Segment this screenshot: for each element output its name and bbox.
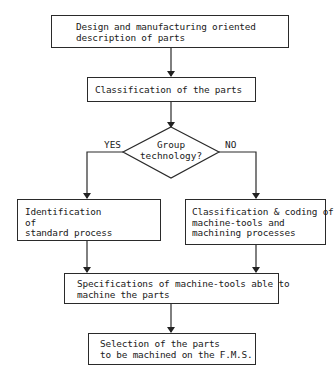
step-text: Classification & coding of [192, 207, 325, 218]
yes-label: YES [104, 139, 121, 150]
step-text: machining processes [192, 228, 325, 239]
step-text: to be machined on the F.M.S. [100, 350, 255, 361]
no-label: NO [225, 139, 236, 150]
decision-text: Group technology? [126, 140, 216, 161]
step-specifications-machine-tools: Specifications of machine-tools able to … [64, 273, 279, 304]
step-text: Identification [25, 207, 160, 218]
step-classification-parts: Classification of the parts [87, 77, 256, 102]
step-design-description: Design and manufacturing oriented descri… [51, 15, 289, 48]
step-selection-parts-fms: Selection of the parts to be machined on… [88, 333, 256, 365]
step-text: Specifications of machine-tools able to [77, 279, 278, 290]
step-classification-coding: Classification & coding of machine-tools… [185, 199, 326, 245]
step-text: Design and manufacturing oriented [76, 22, 288, 33]
step-identification-standard-process: Identification of standard process [17, 199, 161, 241]
step-text: description of parts [76, 33, 288, 44]
connector-lines [0, 0, 336, 372]
step-text: Classification of the parts [95, 85, 255, 96]
step-text: standard process [25, 228, 160, 239]
step-text: Selection of the parts [100, 339, 255, 350]
step-text: machine the parts [77, 290, 278, 301]
